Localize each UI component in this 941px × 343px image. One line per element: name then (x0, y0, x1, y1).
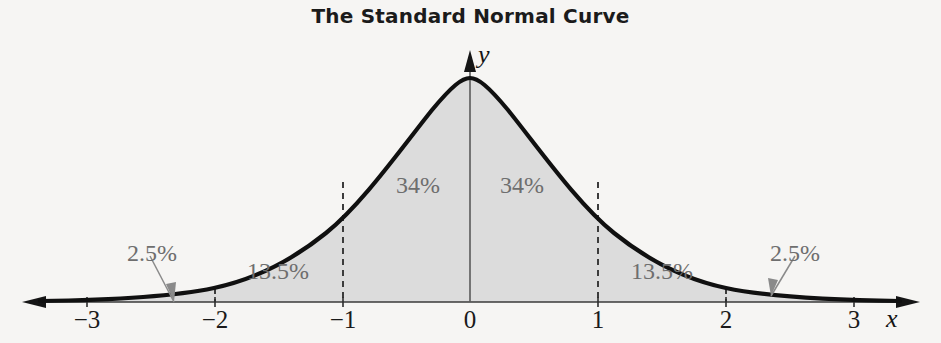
annotation-2-5-percent-left: 2.5% (127, 240, 177, 267)
x-tick-label-3: 3 (824, 306, 884, 334)
x-axis-label: x (886, 304, 898, 334)
x-tick-label-neg2: −2 (185, 306, 245, 334)
normal-curve-plot (0, 0, 941, 343)
annotation-2-5-percent-right: 2.5% (770, 240, 820, 267)
annotation-13-5-percent-right: 13.5% (631, 258, 693, 285)
y-axis-arrow-up (464, 50, 476, 72)
annotation-34-percent-left: 34% (396, 172, 440, 199)
y-axis-label: y (478, 40, 490, 70)
standard-normal-curve-figure: The Standard Normal Curve (0, 0, 941, 343)
x-tick-label-neg1: −1 (313, 306, 373, 334)
annotation-34-percent-right: 34% (500, 172, 544, 199)
x-tick-label-0: 0 (440, 306, 500, 334)
x-tick-label-neg3: −3 (57, 306, 117, 334)
annotation-13-5-percent-left: 13.5% (247, 258, 309, 285)
curve-shaded-area (38, 78, 904, 302)
x-tick-label-1: 1 (568, 306, 628, 334)
x-tick-label-2: 2 (696, 306, 756, 334)
